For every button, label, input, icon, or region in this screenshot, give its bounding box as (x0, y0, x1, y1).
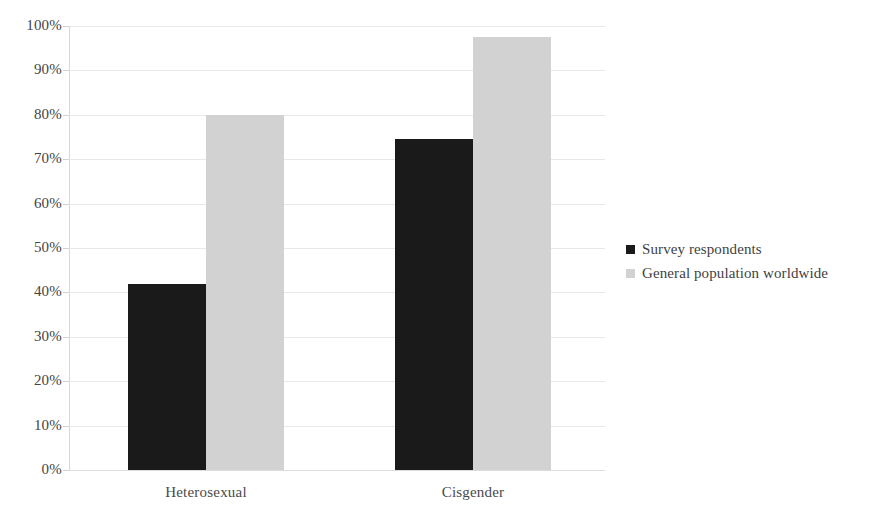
bar-heterosexual-series-0[interactable] (128, 284, 206, 470)
chart-legend: Survey respondentsGeneral population wor… (626, 238, 880, 286)
legend-label: Survey respondents (642, 241, 762, 258)
y-axis-tick-mark (63, 292, 69, 293)
x-axis-tick-label-cisgender: Cisgender (383, 483, 563, 501)
bar-chart: 100%90%80%70%60%50%40%30%20%10%0% Hetero… (0, 0, 884, 517)
legend-item-0[interactable]: Survey respondents (626, 238, 880, 260)
x-axis-labels: HeterosexualCisgender (69, 483, 605, 511)
y-axis-tick-mark (63, 26, 69, 27)
plot-area (69, 26, 605, 470)
y-axis-tick-mark (63, 470, 69, 471)
y-axis-tick-label: 40% (0, 284, 62, 299)
legend-item-1[interactable]: General population worldwide (626, 262, 880, 284)
y-axis-tick-label: 10% (0, 418, 62, 433)
y-axis-tick-mark (63, 115, 69, 116)
bar-heterosexual-series-1[interactable] (206, 115, 284, 470)
y-axis-tick-label: 90% (0, 62, 62, 77)
bars-layer (69, 26, 605, 470)
y-axis-tick-mark (63, 159, 69, 160)
y-axis-tick-mark (63, 337, 69, 338)
y-axis-tick-label: 20% (0, 373, 62, 388)
y-axis-tick-mark (63, 381, 69, 382)
gridline (69, 470, 605, 471)
y-axis-tick-label: 70% (0, 151, 62, 166)
y-axis-tick-mark (63, 248, 69, 249)
y-axis-tick-mark (63, 70, 69, 71)
x-axis-tick-label-heterosexual: Heterosexual (116, 483, 296, 501)
y-axis-tick-label: 50% (0, 240, 62, 255)
legend-label: General population worldwide (642, 265, 828, 282)
y-axis-tick-label: 100% (0, 18, 62, 33)
y-axis-tick-label: 0% (0, 462, 62, 477)
y-axis-tick-label: 30% (0, 329, 62, 344)
legend-swatch-icon (626, 269, 635, 278)
y-axis-tick-mark (63, 426, 69, 427)
y-axis-tick-mark (63, 204, 69, 205)
y-axis-tick-label: 80% (0, 107, 62, 122)
legend-swatch-icon (626, 245, 635, 254)
y-axis-tick-label: 60% (0, 196, 62, 211)
bar-cisgender-series-1[interactable] (473, 37, 551, 470)
bar-cisgender-series-0[interactable] (395, 139, 473, 470)
y-axis-labels: 100%90%80%70%60%50%40%30%20%10%0% (0, 0, 62, 517)
